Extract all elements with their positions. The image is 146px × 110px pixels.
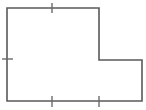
figure-background [0,0,146,110]
l-shaped-polygon-figure [0,0,146,110]
